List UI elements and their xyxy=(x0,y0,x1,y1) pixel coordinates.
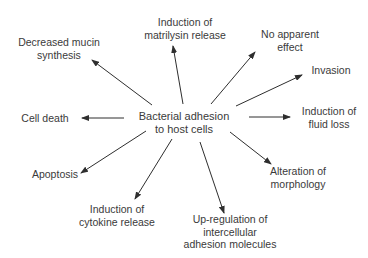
node-upregulation-of-adhesion-molecules: Up-regulation of intercellular adhesion … xyxy=(184,213,277,251)
center-node-line-2: to host cells xyxy=(139,123,230,136)
node-induction-of-cytokine-release: Induction of cytokine release xyxy=(79,203,155,228)
node-induction-of-fluid-loss: Induction of fluid loss xyxy=(302,105,356,130)
center-node-bacterial-adhesion: Bacterial adhesion to host cells xyxy=(139,110,230,136)
node-no-apparent-effect: No apparent effect xyxy=(261,28,319,53)
arrow-cytokine xyxy=(135,139,172,199)
node-apoptosis: Apoptosis xyxy=(32,168,78,181)
node-label-line: cytokine release xyxy=(79,215,155,228)
node-label-line: synthesis xyxy=(18,48,100,61)
node-label-line: adhesion molecules xyxy=(184,238,277,251)
center-node-line-1: Bacterial adhesion xyxy=(139,110,230,123)
node-label-line: Invasion xyxy=(311,64,350,77)
node-label-line: Alteration of xyxy=(270,165,326,178)
node-decreased-mucin-synthesis: Decreased mucin synthesis xyxy=(18,36,100,61)
arrow-apoptosis xyxy=(81,131,146,173)
arrow-no-effect xyxy=(211,52,255,104)
node-label-line: intercellular xyxy=(184,226,277,239)
diagram-canvas: Bacterial adhesion to host cells Inducti… xyxy=(0,0,368,258)
node-alteration-of-morphology: Alteration of morphology xyxy=(270,165,326,190)
node-label-line: effect xyxy=(261,40,319,53)
node-label-line: Up-regulation of xyxy=(184,213,277,226)
arrow-mucin xyxy=(92,60,152,105)
node-label-line: matrilysin release xyxy=(144,28,226,41)
arrow-invasion xyxy=(236,75,302,106)
node-label-line: fluid loss xyxy=(302,117,356,130)
arrow-upregulation xyxy=(200,142,224,213)
node-label-line: Induction of xyxy=(79,203,155,216)
node-label-line: Decreased mucin xyxy=(18,36,100,49)
node-invasion: Invasion xyxy=(311,64,350,77)
node-cell-death: Cell death xyxy=(21,112,68,125)
node-label-line: morphology xyxy=(270,177,326,190)
node-label-line: Induction of xyxy=(302,105,356,118)
arrow-alteration xyxy=(230,132,271,164)
node-label-line: Apoptosis xyxy=(32,168,78,181)
arrow-matrilysin xyxy=(173,46,183,104)
node-label-line: Cell death xyxy=(21,112,68,125)
node-label-line: Induction of xyxy=(144,16,226,29)
node-matrilysin-release: Induction of matrilysin release xyxy=(144,16,226,41)
node-label-line: No apparent xyxy=(261,28,319,41)
